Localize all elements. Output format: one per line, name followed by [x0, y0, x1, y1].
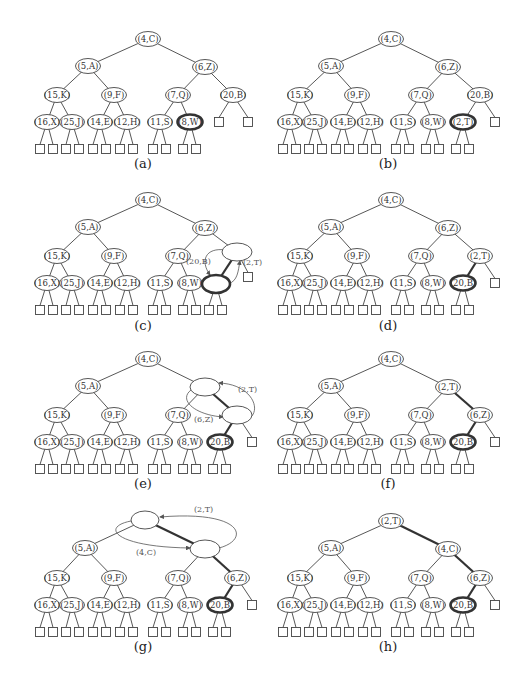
- heap-node: (25,J): [303, 435, 328, 450]
- node-label: (5,A): [78, 222, 99, 232]
- node-label: (11,S): [147, 600, 173, 610]
- node-label: (12,H): [356, 600, 384, 610]
- heap-node: (16,X): [34, 276, 60, 291]
- node-label: (9,F): [104, 573, 125, 583]
- node-label: (6,Z): [195, 62, 216, 72]
- external-node-square: [452, 465, 461, 474]
- heap-node-empty: [202, 275, 230, 293]
- heap-node: (4,C): [136, 193, 161, 208]
- external-node-square: [359, 465, 368, 474]
- heap-node: (25,J): [303, 115, 328, 130]
- external-node-square: [305, 145, 314, 154]
- heap-insertion-figure: (4,C)(5,A)(6,Z)(15,K)(9,F)(7,Q)(20,B)(16…: [0, 0, 526, 680]
- node-label: (8,W): [178, 437, 201, 447]
- external-node-square: [405, 628, 414, 637]
- node-label: (11,S): [147, 437, 173, 447]
- heap-node: (2,T): [379, 514, 404, 529]
- external-node-square: [116, 465, 125, 474]
- heap-node: (7,Q): [409, 88, 434, 103]
- external-node-square: [149, 465, 158, 474]
- heap-node: (7,Q): [166, 571, 191, 586]
- heap-node: (15,K): [287, 249, 314, 264]
- node-label: (2,T): [381, 516, 401, 526]
- node-label: (12,H): [356, 278, 384, 288]
- external-node-square: [162, 145, 171, 154]
- heap-node: (8,W): [178, 276, 203, 291]
- external-node-square: [305, 465, 314, 474]
- node-label: (7,Q): [410, 251, 432, 261]
- node-label: (14,E): [87, 117, 113, 127]
- panel-h: (2,T)(5,A)(4,C)(15,K)(9,F)(7,Q)(6,Z)(16,…: [277, 514, 500, 637]
- node-label: (16,X): [34, 600, 60, 610]
- heap-node: (7,Q): [409, 249, 434, 264]
- swap-annotation-label: (2,T): [194, 505, 213, 514]
- external-node-square: [292, 628, 301, 637]
- caption-h: (h): [379, 639, 398, 654]
- external-node-square: [244, 118, 253, 127]
- node-label: (15,K): [287, 90, 314, 100]
- panels-group: (4,C)(5,A)(6,Z)(15,K)(9,F)(7,Q)(20,B)(16…: [34, 32, 500, 655]
- heap-node: (14,E): [87, 598, 113, 613]
- node-label: (8,W): [421, 278, 444, 288]
- external-node-square: [129, 465, 138, 474]
- external-node-square: [332, 628, 341, 637]
- external-node-square: [345, 628, 354, 637]
- heap-node: (25,J): [60, 435, 85, 450]
- external-node-square: [318, 465, 327, 474]
- node-label: (16,X): [277, 600, 303, 610]
- node-label: (8,W): [421, 437, 444, 447]
- heap-node: (6,Z): [436, 221, 461, 236]
- external-node-square: [89, 306, 98, 315]
- heap-node: (4,C): [379, 352, 404, 367]
- external-node-square: [279, 145, 288, 154]
- external-node-square: [62, 628, 71, 637]
- external-node-square: [491, 438, 500, 447]
- heap-node: (16,X): [277, 598, 303, 613]
- external-node-square: [292, 145, 301, 154]
- node-label: (8,W): [178, 117, 201, 127]
- external-node-square: [405, 145, 414, 154]
- external-node-square: [491, 279, 500, 288]
- heap-node: (11,S): [390, 276, 416, 291]
- panel-d: (4,C)(5,A)(6,Z)(15,K)(9,F)(7,Q)(2,T)(16,…: [277, 193, 500, 315]
- node-label: (16,X): [34, 437, 60, 447]
- node-label: (4,C): [380, 195, 401, 205]
- heap-node: (9,F): [345, 571, 370, 586]
- external-node-square: [279, 465, 288, 474]
- external-node-square: [435, 465, 444, 474]
- caption-a: (a): [134, 156, 152, 171]
- external-node-square: [372, 628, 381, 637]
- heap-node: (5,A): [76, 379, 101, 394]
- heap-node: (11,S): [390, 115, 416, 130]
- heap-node: (4,C): [136, 352, 161, 367]
- heap-node: (16,X): [277, 115, 303, 130]
- heap-node: (11,S): [147, 276, 173, 291]
- panel-c: (4,C)(5,A)(6,Z)(15,K)(9,F)(7,Q)(16,X)(25…: [34, 193, 262, 315]
- external-node-square: [392, 145, 401, 154]
- external-node-square: [392, 628, 401, 637]
- external-node-square: [192, 306, 201, 315]
- panel-g: (5,A)(15,K)(9,F)(7,Q)(6,Z)(16,X)(25,J)(1…: [34, 505, 257, 637]
- node-label: (25,J): [303, 278, 327, 288]
- external-node-square: [62, 145, 71, 154]
- external-node-square: [422, 306, 431, 315]
- node-label: (5,A): [321, 381, 342, 391]
- heap-node: (20,B): [467, 88, 493, 103]
- external-node-square: [75, 145, 84, 154]
- node-label: (11,S): [147, 278, 173, 288]
- caption-d: (d): [379, 318, 397, 333]
- external-node-square: [162, 465, 171, 474]
- heap-node: (25,J): [303, 598, 328, 613]
- caption-c: (c): [134, 318, 151, 333]
- node-label: (15,K): [44, 251, 71, 261]
- external-node-square: [149, 306, 158, 315]
- external-node-square: [89, 145, 98, 154]
- external-node-square: [405, 306, 414, 315]
- node-label: (20,B): [207, 437, 233, 447]
- heap-node: (7,Q): [409, 408, 434, 423]
- node-label: (9,F): [347, 573, 368, 583]
- heap-node: (20,B): [450, 276, 476, 291]
- node-label: (11,S): [390, 117, 416, 127]
- heap-node: (9,F): [345, 408, 370, 423]
- heap-node: (9,F): [102, 408, 127, 423]
